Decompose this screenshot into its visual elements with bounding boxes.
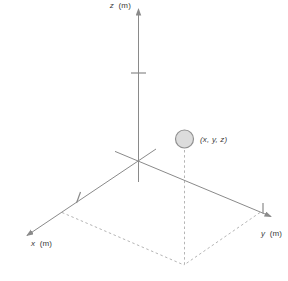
figure-canvas: z (m) x (m) y (m) (x, y, z) — [0, 0, 288, 281]
x-axis-label-var: x — [30, 239, 36, 248]
y-axis-label-unit: (m) — [270, 229, 283, 238]
z-axis-label: z (m) — [109, 1, 131, 10]
z-axis-label-unit: (m) — [118, 1, 131, 10]
y-axis-line — [115, 151, 271, 216]
x-axis-label-unit: (m) — [40, 239, 53, 248]
z-axis-label-var: z — [109, 1, 114, 10]
point-label: (x, y, z) — [200, 135, 228, 144]
coordinate-diagram: z (m) x (m) y (m) (x, y, z) — [0, 0, 288, 281]
point-marker — [176, 130, 194, 148]
y-axis-label-var: y — [260, 229, 266, 238]
projection-line-y-to-base — [184, 213, 260, 266]
y-axis-label: y (m) — [260, 229, 282, 238]
projection-line-x-to-base — [62, 213, 184, 266]
x-axis-label: x (m) — [30, 239, 52, 248]
x-axis-line — [27, 149, 156, 236]
